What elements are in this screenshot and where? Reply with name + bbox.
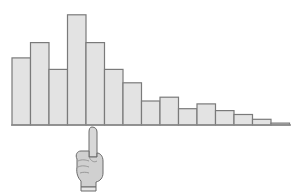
bar-9 xyxy=(160,97,179,125)
bar-12 xyxy=(216,111,235,125)
pointing-hand-icon xyxy=(76,127,103,191)
bar-6 xyxy=(105,69,124,125)
bar-4 xyxy=(68,15,87,125)
bar-7 xyxy=(123,83,142,125)
bar-8 xyxy=(142,101,161,125)
bar-2 xyxy=(31,43,50,125)
bar-1 xyxy=(12,58,31,125)
bar-13 xyxy=(234,115,253,126)
bar-14 xyxy=(253,119,272,125)
bar-10 xyxy=(179,109,198,125)
bar-11 xyxy=(197,104,216,125)
bar-3 xyxy=(49,69,68,125)
bars-group xyxy=(12,15,290,125)
histogram-chart xyxy=(0,0,299,194)
bar-5 xyxy=(86,43,105,125)
